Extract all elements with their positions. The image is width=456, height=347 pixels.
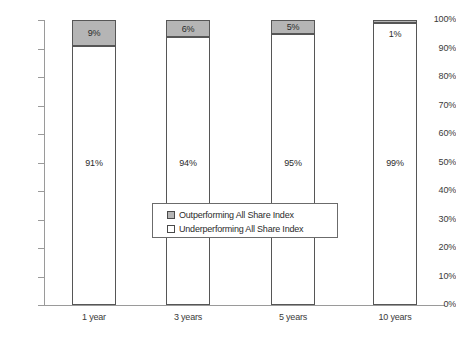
y-axis-tick (38, 305, 44, 306)
legend-swatch-underperforming-icon (167, 225, 175, 233)
bar-segment-underperforming (271, 34, 315, 305)
bar-5-years (271, 20, 315, 305)
bar-segment-underperforming (373, 23, 417, 305)
y-axis-tick (38, 77, 44, 78)
x-axis-line (44, 305, 445, 306)
x-axis-label-3-years: 3 years (148, 312, 228, 322)
bar-segment-outperforming (271, 20, 315, 34)
x-axis-label-5-years: 5 years (253, 312, 333, 322)
y-axis-label: 20% (420, 243, 456, 252)
y-axis-label: 60% (420, 129, 456, 138)
legend-item-outperforming: Outperforming All Share Index (167, 208, 337, 221)
stacked-bar-chart: 0%10%20%30%40%50%60%70%80%90%100% 9%91%6… (0, 0, 456, 347)
y-axis-label: 40% (420, 186, 456, 195)
y-axis-tick (38, 163, 44, 164)
legend-swatch-outperforming-icon (167, 211, 175, 219)
y-axis-tick (38, 277, 44, 278)
y-axis-tick (38, 248, 44, 249)
x-axis-label-1-year: 1 year (54, 312, 134, 322)
y-axis-tick (38, 20, 44, 21)
y-axis-tick (38, 106, 44, 107)
bar-segment-underperforming (166, 37, 210, 305)
y-axis-line (44, 20, 45, 306)
bar-3-years (166, 20, 210, 305)
y-axis-tick (38, 49, 44, 50)
y-axis-label: 80% (420, 72, 456, 81)
y-axis-tick (38, 191, 44, 192)
bar-10-years (373, 20, 417, 305)
y-axis-label: 30% (420, 215, 456, 224)
y-axis-tick (38, 134, 44, 135)
y-axis-tick (38, 220, 44, 221)
y-axis-label: 100% (420, 15, 456, 24)
bar-segment-underperforming (72, 46, 116, 305)
legend-label-outperforming: Outperforming All Share Index (179, 210, 294, 220)
bar-segment-outperforming (166, 20, 210, 37)
legend-label-underperforming: Underperforming All Share Index (179, 224, 303, 234)
chart-legend: Outperforming All Share Index Underperfo… (152, 203, 338, 238)
y-axis-label: 50% (420, 158, 456, 167)
x-axis-label-10-years: 10 years (355, 312, 435, 322)
y-axis-label: 0% (420, 300, 456, 309)
y-axis-label: 70% (420, 101, 456, 110)
bar-1-year (72, 20, 116, 305)
y-axis-label: 90% (420, 44, 456, 53)
bar-segment-outperforming (373, 20, 417, 23)
y-axis-label: 10% (420, 272, 456, 281)
bar-segment-outperforming (72, 20, 116, 46)
legend-item-underperforming: Underperforming All Share Index (167, 222, 337, 235)
